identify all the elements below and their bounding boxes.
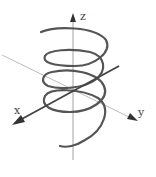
z-axis-label: z: [80, 10, 86, 23]
y-axis-label: y: [137, 106, 145, 119]
x-axis-label: x: [14, 104, 21, 117]
y-axis-line: [2, 55, 131, 118]
y-axis-arrow: [127, 113, 138, 121]
helix-diagram: z x y: [0, 0, 156, 177]
z-axis-arrow: [70, 13, 76, 22]
helix-curve: [41, 28, 107, 147]
